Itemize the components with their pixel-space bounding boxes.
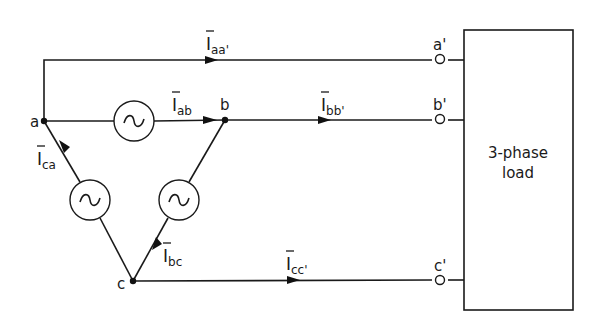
current-label-I-bc: Ibc (163, 243, 182, 269)
arrow-right-icon (287, 276, 300, 284)
arrow-right-icon (203, 116, 217, 124)
svg-text:Ica: Ica (37, 149, 56, 172)
line-c-to-c-prime (133, 276, 464, 284)
source-ab (114, 101, 154, 141)
node-c-label: c (117, 275, 125, 293)
svg-text:Ibc: Ibc (163, 246, 182, 269)
delta-source-circuit-diagram: 3-phase load a b c a' b' c' Iaa' Iab Ibb… (0, 0, 599, 327)
terminal-a-prime-label: a' (433, 36, 446, 54)
arrow-up-icon (59, 140, 70, 153)
terminal-a-prime (436, 55, 445, 64)
svg-text:Icc': Icc' (286, 254, 308, 277)
current-label-I-ab: Iab (172, 92, 192, 118)
load-label-line2: load (502, 164, 534, 182)
node-a-dot (41, 118, 47, 124)
current-label-I-bb-prime: Ibb' (321, 92, 345, 118)
node-a-label: a (30, 113, 39, 131)
node-b-label: b (220, 96, 230, 114)
svg-text:Iab: Iab (172, 95, 192, 118)
svg-text:Iaa': Iaa' (206, 34, 229, 57)
terminal-b-prime-label: b' (433, 96, 447, 114)
terminal-b-prime (436, 115, 445, 124)
terminal-c-prime-label: c' (434, 257, 446, 275)
svg-text:Ibb': Ibb' (321, 95, 345, 118)
node-c-dot (130, 278, 136, 284)
load-label-line1: 3-phase (488, 144, 548, 162)
node-b-dot (222, 117, 228, 123)
arrow-right-icon (205, 56, 218, 64)
source-ca (70, 180, 110, 220)
current-label-I-ca: Ica (37, 146, 56, 172)
terminal-c-prime (436, 276, 445, 285)
source-bc (159, 180, 199, 220)
current-label-I-cc-prime: Icc' (286, 251, 308, 277)
line-a-to-a-prime (44, 56, 464, 121)
current-label-I-aa-prime: Iaa' (206, 31, 229, 57)
